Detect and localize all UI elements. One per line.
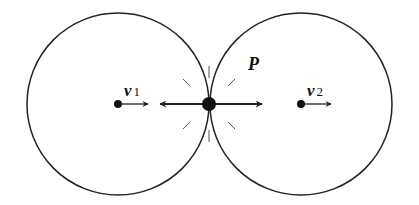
contact-point-p	[202, 97, 216, 111]
label-p: P	[247, 54, 260, 74]
tangent-circles-diagram: v1 v2 P	[0, 0, 419, 205]
label-v2: v2	[307, 81, 323, 100]
label-v1: v1	[124, 81, 140, 100]
